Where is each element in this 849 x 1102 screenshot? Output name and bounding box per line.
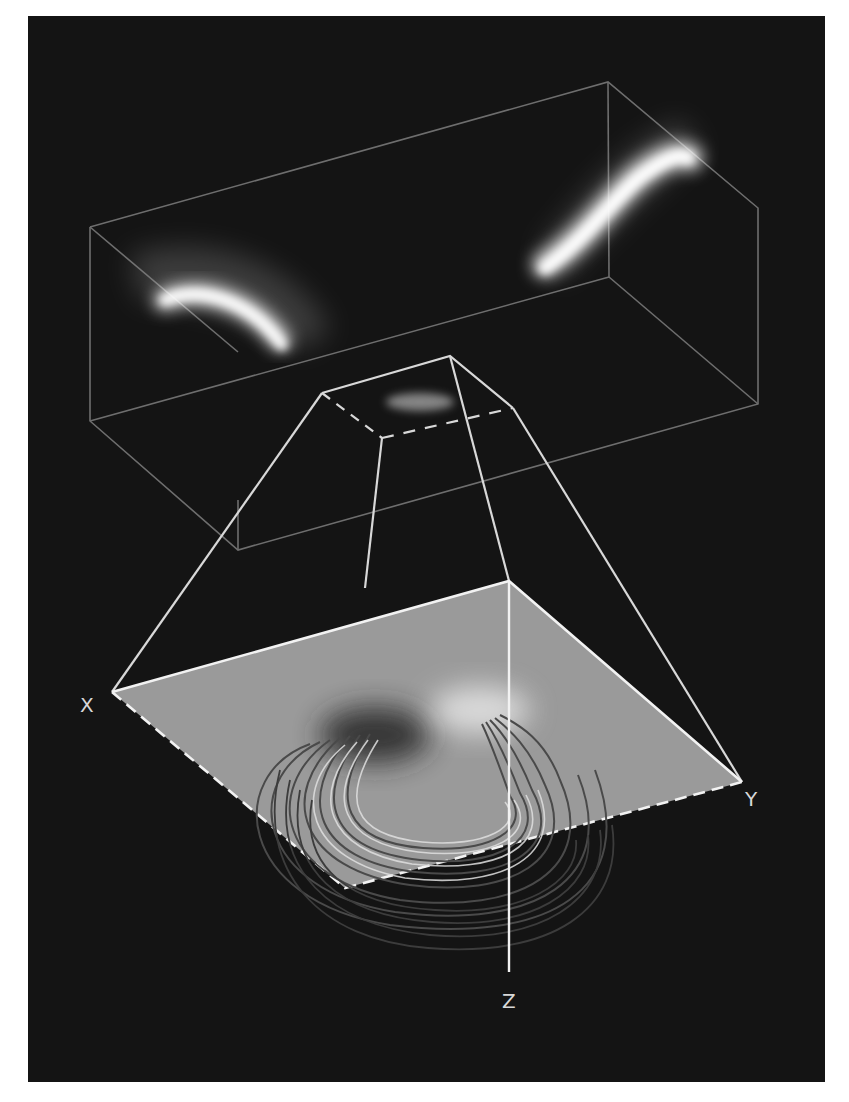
volume-rendering-diagram: X Y Z [0, 0, 849, 1102]
z-axis-label: Z [502, 989, 516, 1013]
x-axis-label: X [80, 693, 94, 717]
volume-haze [130, 120, 700, 350]
y-axis-label: Y [744, 787, 758, 811]
frustum-spot [386, 393, 454, 411]
